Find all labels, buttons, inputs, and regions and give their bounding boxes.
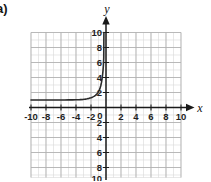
x-axis-label: x bbox=[196, 101, 203, 115]
x-tick-label: -2 bbox=[87, 111, 95, 122]
y-tick-labels-negative: 2 4 6 8 10 bbox=[91, 117, 102, 181]
y-axis-label: y bbox=[103, 2, 110, 16]
figure-container: a) bbox=[0, 0, 211, 181]
y-tick-label: 2 bbox=[97, 117, 102, 128]
coordinate-graph: -10 -8 -6 -4 -2 2 4 6 8 10 0 10 8 6 4 2 … bbox=[0, 0, 211, 181]
x-tick-label: -6 bbox=[57, 111, 65, 122]
x-tick-label: 10 bbox=[176, 111, 187, 122]
y-tick-label: 2 bbox=[97, 87, 102, 98]
axes bbox=[29, 16, 195, 180]
y-tick-label: 4 bbox=[97, 72, 103, 83]
x-tick-label: -8 bbox=[42, 111, 50, 122]
x-tick-label: 8 bbox=[163, 111, 168, 122]
y-axis-arrow bbox=[102, 16, 109, 25]
y-tick-label: 6 bbox=[97, 147, 102, 158]
y-tick-label: 10 bbox=[91, 27, 102, 38]
y-tick-label: 8 bbox=[97, 42, 102, 53]
x-tick-label: -10 bbox=[24, 111, 38, 122]
x-tick-labels: -10 -8 -6 -4 -2 2 4 6 8 10 bbox=[24, 111, 186, 122]
x-tick-label: -4 bbox=[72, 111, 81, 122]
x-tick-label: 6 bbox=[148, 111, 153, 122]
x-axis-arrow bbox=[186, 104, 195, 111]
y-tick-label: 10 bbox=[91, 173, 102, 182]
y-tick-label: 4 bbox=[97, 132, 103, 143]
x-tick-label: 2 bbox=[118, 111, 123, 122]
y-tick-label: 6 bbox=[97, 57, 102, 68]
exponential-curve bbox=[31, 33, 104, 101]
y-tick-label: 8 bbox=[97, 162, 102, 173]
x-tick-label: 4 bbox=[133, 111, 139, 122]
